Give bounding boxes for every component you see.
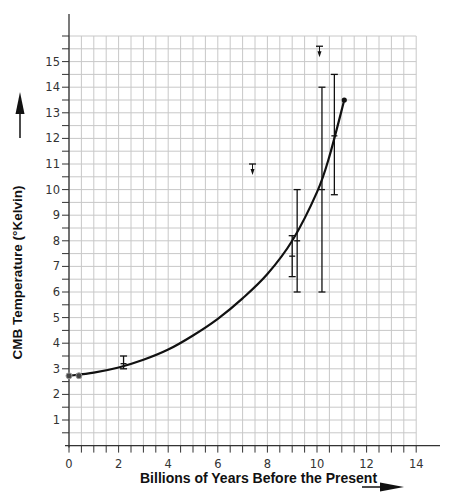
prediction-line xyxy=(69,100,344,376)
down-arrow-icon xyxy=(251,169,255,175)
y-tick-label: 8 xyxy=(53,234,60,248)
predicted-curve xyxy=(69,97,347,375)
y-axis-label-wrap: CMB Temperature (°Kelvin) xyxy=(8,142,28,402)
y-tick-label: 15 xyxy=(45,55,60,69)
x-tick-label: 2 xyxy=(115,457,122,471)
y-tick-label: 14 xyxy=(45,80,60,94)
y-tick-label: 13 xyxy=(45,106,60,120)
x-tick-label: 6 xyxy=(214,457,221,471)
x-tick-label: 8 xyxy=(264,457,271,471)
x-tick-label: 12 xyxy=(359,457,374,471)
up-arrow-icon xyxy=(16,92,25,114)
y-tick-label: 7 xyxy=(53,259,60,273)
down-arrow-icon xyxy=(317,51,321,57)
y-tick-label: 5 xyxy=(53,311,60,325)
right-arrow-icon xyxy=(380,483,404,492)
x-tick-label: 10 xyxy=(310,457,325,471)
x-axis-label: Billions of Years Before the Present xyxy=(140,470,377,486)
y-tick-label: 4 xyxy=(53,336,60,350)
x-tick-label: 4 xyxy=(165,457,172,471)
data-point xyxy=(66,373,72,379)
x-tick-label: 14 xyxy=(409,457,424,471)
x-tick-label: 0 xyxy=(65,457,72,471)
y-tick-label: 1 xyxy=(53,413,60,427)
y-tick-label: 11 xyxy=(45,157,60,171)
chart-canvas: 12345678910111213141502468101214 xyxy=(0,0,457,504)
y-tick-label: 10 xyxy=(45,183,60,197)
y-axis-label: CMB Temperature (°Kelvin) xyxy=(11,185,26,359)
y-tick-label: 6 xyxy=(53,285,60,299)
y-tick-label: 3 xyxy=(53,362,60,376)
curve-endpoint xyxy=(342,97,347,102)
grid xyxy=(69,36,416,446)
y-tick-label: 12 xyxy=(45,131,60,145)
data-point xyxy=(76,373,82,379)
y-tick-label: 2 xyxy=(53,387,60,401)
y-tick-label: 9 xyxy=(53,208,60,222)
